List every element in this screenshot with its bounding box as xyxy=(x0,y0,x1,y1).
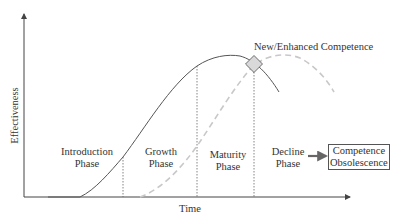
phase-label-line1: Introduction xyxy=(52,146,122,158)
x-axis-label: Time xyxy=(175,203,205,215)
phase-label-line2: Phase xyxy=(203,161,253,173)
phase-label-line1: Maturity xyxy=(203,149,253,161)
phase-label-line2: Phase xyxy=(136,158,186,170)
phase-label-line1: Growth xyxy=(136,146,186,158)
phase-label-line2: Phase xyxy=(263,158,313,170)
phase-label-line1: Decline xyxy=(263,146,313,158)
box-line2: Obsolescence xyxy=(330,157,388,169)
diagram-canvas xyxy=(0,0,401,224)
new-competence-curve xyxy=(140,55,334,197)
new-competence-label: New/Enhanced Competence xyxy=(254,41,378,53)
phase-growth: Growth Phase xyxy=(136,146,186,170)
phase-introduction: Introduction Phase xyxy=(52,146,122,170)
phase-maturity: Maturity Phase xyxy=(203,149,253,173)
y-axis-label: Effectiveness xyxy=(9,86,20,146)
box-line1: Competence xyxy=(330,145,388,157)
phase-decline: Decline Phase xyxy=(263,146,313,170)
phase-label-line2: Phase xyxy=(52,158,122,170)
new-competence-marker xyxy=(246,56,263,73)
competence-obsolescence-box: Competence Obsolescence xyxy=(328,144,390,170)
